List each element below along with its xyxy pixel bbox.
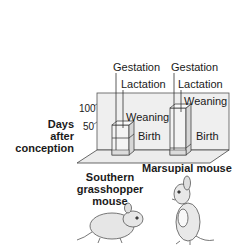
y-tick-50: 50 — [83, 122, 94, 132]
y-axis-label-line: Days — [40, 118, 74, 130]
gestation-label-marsupial: Gestation — [171, 61, 218, 73]
species-name-line: Southern — [72, 171, 148, 183]
lactation-label-grasshopper: Lactation — [121, 78, 166, 90]
lactation-label-marsupial: Lactation — [178, 78, 223, 90]
birth-label-grasshopper: Birth — [138, 130, 161, 142]
species-name-marsupial: Marsupial mouse — [142, 162, 228, 174]
y-axis-label-line3: conception — [12, 142, 74, 154]
gestation-label-grasshopper: Gestation — [113, 61, 160, 73]
y-tick-100: 100 — [79, 104, 96, 114]
species-name-line: grasshopper — [72, 183, 148, 195]
marsupial-mouse-illustration — [172, 176, 214, 245]
chart-graphics — [0, 0, 243, 251]
species-name-grasshopper: Southern grasshopper mouse — [72, 171, 148, 207]
grasshopper-mouse-illustration — [77, 203, 143, 243]
y-axis-label-line: after — [40, 130, 74, 142]
birth-label-marsupial: Birth — [196, 130, 219, 142]
weaning-label-grasshopper: Weaning — [126, 111, 169, 123]
bar-marsupial-mouse — [170, 104, 191, 155]
weaning-label-marsupial: Weaning — [184, 95, 227, 107]
species-name-line: mouse — [72, 195, 148, 207]
y-axis-label: Days after — [40, 118, 74, 142]
